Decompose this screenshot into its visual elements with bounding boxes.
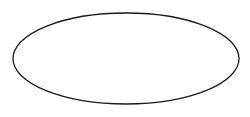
canvas-background bbox=[0, 0, 250, 117]
diagram-canvas bbox=[0, 0, 250, 117]
ellipse-shape-svg bbox=[0, 0, 250, 117]
